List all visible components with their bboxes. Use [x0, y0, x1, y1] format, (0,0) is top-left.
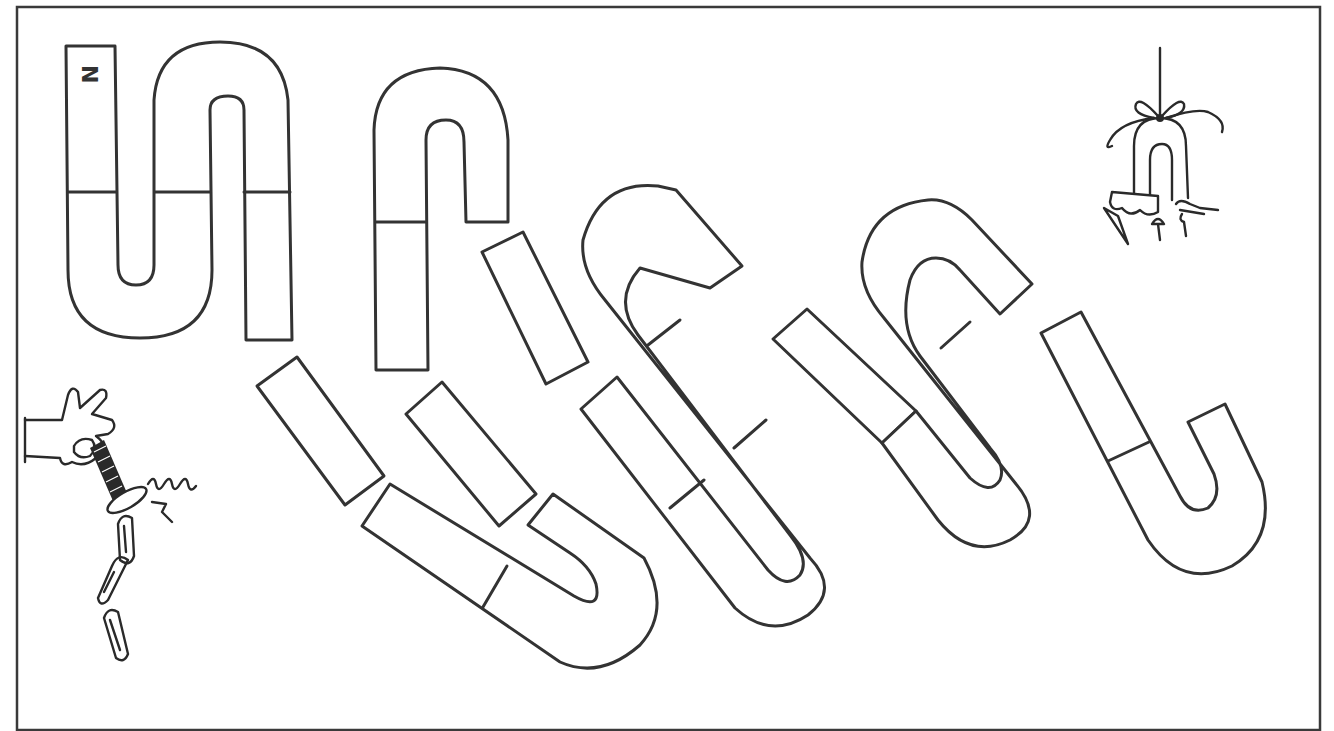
j-magnet-right	[1041, 312, 1265, 574]
s-magnet-complete: N	[66, 42, 292, 340]
worksheet-canvas: N	[0, 0, 1334, 731]
paperclip-icon-3	[104, 610, 128, 660]
page-frame	[17, 7, 1320, 730]
hook-magnet	[374, 68, 508, 370]
s-magnet-diagonal-2	[862, 200, 1032, 547]
hand-with-magnet-and-paperclips	[25, 389, 196, 661]
paperclip-icon-2	[98, 557, 128, 603]
tack-icon-2	[1176, 201, 1218, 236]
ribbon-left-icon	[1107, 118, 1154, 147]
tack-icon	[152, 502, 172, 522]
nails-cluster-icon	[1110, 192, 1158, 215]
bow-left-icon	[1135, 102, 1158, 118]
bar-2	[482, 232, 588, 384]
screw-icon	[1104, 208, 1128, 244]
horseshoe-magnet-icon	[1134, 118, 1188, 200]
bar-1	[257, 357, 384, 505]
north-pole-label: N	[77, 65, 102, 83]
spring-icon	[148, 479, 196, 490]
tack-icon-1	[1152, 219, 1164, 240]
hanging-horseshoe-magnet	[1104, 48, 1223, 244]
